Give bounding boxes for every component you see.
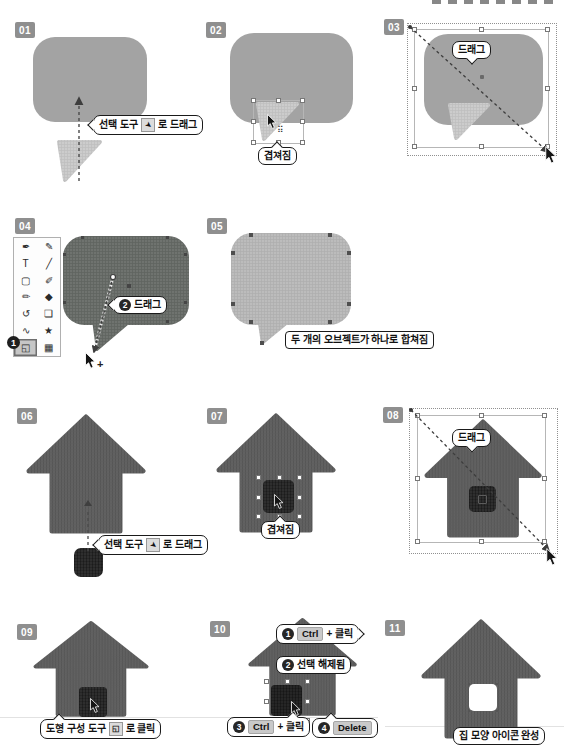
callout-drag: 드래그 bbox=[452, 429, 491, 447]
add-mode-plus-sign: + bbox=[97, 358, 103, 370]
mouse-cursor bbox=[545, 548, 558, 567]
type-tool[interactable]: T bbox=[14, 255, 37, 272]
paintbrush-tool[interactable]: ✐ bbox=[37, 272, 60, 289]
selection-handle bbox=[256, 495, 261, 500]
selection-handle bbox=[285, 679, 290, 684]
selection-handle bbox=[251, 140, 256, 145]
step-badge-02: 02 bbox=[206, 22, 226, 38]
mouse-cursor bbox=[290, 701, 301, 717]
step-badge-11: 11 bbox=[385, 620, 405, 636]
puppet-warp-tool[interactable]: ★ bbox=[37, 322, 60, 339]
anchor-point bbox=[496, 710, 498, 712]
rounded-rectangle-shape bbox=[33, 37, 147, 122]
step2-number-badge: 2 bbox=[282, 659, 294, 671]
drag-direction-arrow bbox=[72, 92, 86, 184]
ctrl-keycap: Ctrl bbox=[248, 720, 274, 734]
delete-keycap: Delete bbox=[333, 721, 372, 735]
label-two-objects-merged: 두 개의 오브젝트가 하나로 합쳐짐 bbox=[285, 331, 434, 349]
selection-handle bbox=[300, 119, 305, 124]
callout-text: 선택 도구 bbox=[99, 119, 138, 131]
callout-overlapped: 겹쳐짐 bbox=[261, 521, 300, 539]
tools-panel: ✒ ✎ T ╱ ▢ ✐ ✏ ◆ ↺ ❏ ∿ ★ ◱ ▦ 1 bbox=[13, 237, 61, 357]
step-badge-01: 01 bbox=[15, 22, 35, 38]
rotate-tool[interactable]: ↺ bbox=[14, 305, 37, 322]
callout-drag: 드래그 bbox=[452, 41, 491, 59]
selection-handle bbox=[297, 475, 302, 480]
callout-text: + 클릭 bbox=[326, 628, 353, 640]
mouse-cursor bbox=[89, 698, 100, 714]
callout-overlapped: 겹쳐짐 bbox=[258, 147, 297, 165]
selection-handle bbox=[251, 98, 256, 103]
label-text: 두 개의 오브젝트가 하나로 합쳐짐 bbox=[291, 334, 428, 346]
step-badge-08: 08 bbox=[383, 407, 403, 423]
shape-builder-tool-icon: ◱ bbox=[109, 722, 123, 736]
selection-tool-icon: ➤ bbox=[141, 118, 155, 132]
selection-handle bbox=[264, 699, 269, 704]
step-badge-10: 10 bbox=[210, 621, 230, 637]
selection-handle bbox=[256, 475, 261, 480]
anchor-point bbox=[468, 710, 470, 712]
tutorial-page: 01 선택 도구 ➤ 로 드래그 02 ⠿ 겹쳐짐 03 드래그 04 ✒ ✎ bbox=[0, 0, 564, 753]
selection-handle bbox=[251, 119, 256, 124]
selection-handle bbox=[297, 514, 302, 519]
callout-text: 로 드래그 bbox=[158, 119, 197, 131]
callout-text: 도형 구성 도구 bbox=[46, 723, 106, 735]
step-badge-06: 06 bbox=[17, 408, 37, 424]
step3-number-badge: 3 bbox=[233, 721, 245, 733]
callout-text: 겹쳐짐 bbox=[267, 524, 294, 536]
callout-text: + 클릭 bbox=[277, 721, 304, 733]
pen-tool[interactable]: ✒ bbox=[14, 238, 37, 255]
callout-text: 로 드래그 bbox=[163, 539, 202, 551]
selection-handle bbox=[300, 98, 305, 103]
selection-handle bbox=[305, 699, 310, 704]
callout-text: 선택 해제됨 bbox=[297, 659, 345, 671]
step2-number-badge: 2 bbox=[119, 299, 131, 311]
step-badge-03: 03 bbox=[384, 19, 404, 35]
label-text: 집 모양 아이콘 완성 bbox=[459, 730, 539, 742]
anchor-point bbox=[496, 683, 498, 685]
line-tool[interactable]: ╱ bbox=[37, 255, 60, 272]
cropped-page-header-text bbox=[432, 0, 558, 4]
step-badge-09: 09 bbox=[17, 624, 37, 640]
callout-text: 겹쳐짐 bbox=[264, 150, 291, 162]
callout-selection-released: 2 선택 해제됨 bbox=[276, 656, 351, 674]
shaper-tool[interactable]: ✏ bbox=[14, 289, 37, 306]
ctrl-keycap: Ctrl bbox=[297, 627, 323, 641]
mouse-cursor bbox=[84, 352, 96, 370]
callout-drag-step2: 2 드래그 bbox=[113, 296, 167, 314]
callout-click-with-shape-builder: 도형 구성 도구 ◱ 로 클릭 bbox=[40, 719, 161, 739]
callout-drag-with-selection-tool: 선택 도구 ➤ 로 드래그 bbox=[98, 535, 208, 555]
eraser-tool[interactable]: ◆ bbox=[37, 289, 60, 306]
callout-delete-key: 4 Delete bbox=[312, 718, 378, 738]
shape-builder-drag-arrow bbox=[80, 268, 125, 363]
callout-text: 드래그 bbox=[134, 299, 161, 311]
mouse-cursor bbox=[273, 494, 284, 510]
callout-ctrl-click-3: 3 Ctrl + 클릭 bbox=[227, 717, 310, 737]
selection-handle bbox=[297, 495, 302, 500]
selection-bounding-box bbox=[253, 100, 304, 144]
callout-drag-with-selection-tool: 선택 도구 ➤ 로 드래그 bbox=[93, 115, 203, 135]
door-cutout-hole bbox=[469, 684, 497, 711]
anchor-point bbox=[468, 683, 470, 685]
mouse-cursor bbox=[544, 146, 557, 165]
selection-handle bbox=[305, 679, 310, 684]
step4-number-badge: 4 bbox=[318, 722, 330, 734]
selection-handle bbox=[276, 98, 281, 103]
callout-text: 드래그 bbox=[458, 432, 485, 444]
selection-handle bbox=[256, 514, 261, 519]
rectangle-tool[interactable]: ▢ bbox=[14, 272, 37, 289]
selection-handle bbox=[277, 475, 282, 480]
callout-text: 드래그 bbox=[458, 44, 485, 56]
step-badge-05: 05 bbox=[207, 218, 227, 234]
free-transform-tool[interactable]: ❏ bbox=[37, 305, 60, 322]
step-badge-04: 04 bbox=[15, 218, 35, 234]
label-house-icon-complete: 집 모양 아이콘 완성 bbox=[453, 727, 545, 745]
mouse-cursor bbox=[266, 114, 277, 130]
selection-handle bbox=[300, 140, 305, 145]
step-badge-07: 07 bbox=[207, 408, 227, 424]
curvature-tool[interactable]: ✎ bbox=[37, 238, 60, 255]
callout-ctrl-click-1: 1 Ctrl + 클릭 bbox=[276, 624, 359, 644]
diagonal-drag-arrow bbox=[406, 404, 558, 560]
selection-handle bbox=[264, 679, 269, 684]
perspective-grid-tool[interactable]: ▦ bbox=[37, 339, 60, 356]
